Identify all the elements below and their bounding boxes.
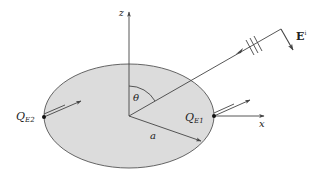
radius-label: a — [150, 131, 156, 141]
QE1-label: QE1 — [185, 112, 204, 125]
diagram-canvas — [0, 0, 319, 177]
wavefront-ticks — [246, 36, 262, 55]
theta-label: θ — [133, 93, 139, 103]
QE1-subscript: E1 — [194, 117, 204, 125]
edge-current-arrows-QE1 — [214, 100, 250, 116]
x-axis-label: x — [259, 119, 265, 129]
incident-field-label: Ei — [296, 30, 306, 42]
point-QE1 — [212, 114, 216, 118]
QE2-label: QE2 — [16, 111, 35, 124]
QE1-base: Q — [185, 111, 194, 124]
z-axis-label: z — [119, 9, 124, 18]
QE2-base: Q — [16, 110, 25, 123]
QE2-subscript: E2 — [25, 116, 35, 124]
point-QE2 — [42, 115, 46, 119]
field-superscript: i — [304, 29, 306, 36]
incident-field-arrow — [281, 29, 293, 50]
